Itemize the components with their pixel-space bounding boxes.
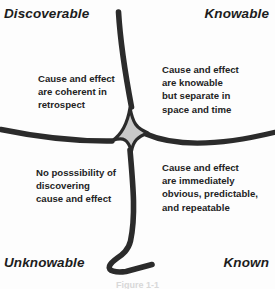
quadrant-text-known: Cause and effect are immediately obvious…	[162, 161, 258, 214]
axis-arm-right	[146, 133, 274, 144]
corner-label-unknowable: Unknowable	[4, 255, 85, 270]
corner-label-known: Known	[224, 255, 270, 270]
quadrant-text-chaos: No posssibility of discovering cause and…	[36, 166, 116, 206]
corner-label-discoverable: Discoverable	[4, 6, 89, 21]
center-star-shape	[113, 108, 149, 151]
axis-arm-top	[119, 12, 132, 107]
cynefin-diagram: Discoverable Knowable Unknowable Known C…	[0, 0, 275, 289]
corner-label-knowable: Knowable	[204, 6, 269, 21]
axis-arm-left	[1, 130, 112, 142]
quadrant-text-complex: Cause and effect are coherent in retrosp…	[38, 72, 115, 112]
quadrant-text-knowable: Cause and effect are knowable but separa…	[162, 63, 239, 116]
figure-caption: Figure 1-1	[0, 280, 275, 289]
axes-illustration	[0, 0, 275, 289]
